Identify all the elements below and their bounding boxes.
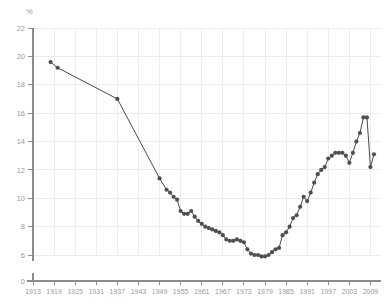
data-point-marker [323, 165, 327, 169]
data-point-marker [193, 215, 197, 219]
y-tick-label: 10 [17, 194, 25, 203]
line-chart: 22201816141210860 1913191919251931193719… [0, 0, 390, 304]
data-point-marker [368, 165, 372, 169]
data-point-marker [288, 225, 292, 229]
data-point-marker [312, 181, 316, 185]
data-point-marker [48, 60, 52, 64]
data-point-marker [179, 209, 183, 213]
data-point-marker [168, 190, 172, 194]
x-tick-label: 1985 [278, 288, 294, 295]
x-tick-label: 1925 [67, 288, 83, 295]
x-tick-label: 1991 [299, 288, 315, 295]
data-point-marker [340, 151, 344, 155]
data-point-marker [316, 172, 320, 176]
data-point-marker [245, 247, 249, 251]
chart-container: 22201816141210860 1913191919251931193719… [0, 0, 390, 304]
data-point-marker [319, 168, 323, 172]
y-tick-label: 6 [21, 251, 25, 260]
data-point-marker [344, 154, 348, 158]
data-point-marker [354, 139, 358, 143]
data-point-marker [326, 156, 330, 160]
y-tick-label: 12 [17, 166, 25, 175]
series-polyline [51, 62, 374, 256]
y-tick-label: 8 [21, 222, 25, 231]
data-point-marker [157, 176, 161, 180]
x-tick-label: 1955 [173, 288, 189, 295]
data-point-marker [280, 233, 284, 237]
data-point-marker [330, 154, 334, 158]
data-point-marker [291, 216, 295, 220]
data-point-marker [277, 246, 281, 250]
data-point-marker [200, 222, 204, 226]
data-point-marker [305, 199, 309, 203]
x-tick-label: 1931 [88, 288, 104, 295]
tick-marks [28, 28, 370, 285]
data-point-marker [298, 205, 302, 209]
data-point-marker [196, 219, 200, 223]
data-point-marker [365, 115, 369, 119]
x-tick-label: 1997 [320, 288, 336, 295]
data-point-marker [309, 190, 313, 194]
data-point-marker [372, 152, 376, 156]
x-tick-label: 1949 [152, 288, 168, 295]
y-tick-label: 0 [21, 277, 25, 286]
data-point-marker [351, 151, 355, 155]
data-point-marker [221, 233, 225, 237]
data-point-marker [217, 230, 221, 234]
y-tick-label: 22 [17, 24, 25, 33]
y-axis-tick-labels: 22201816141210860 [17, 24, 25, 286]
y-tick-label: 20 [17, 52, 25, 61]
data-point-marker [284, 230, 288, 234]
data-point-markers [48, 60, 376, 259]
data-point-marker [295, 213, 299, 217]
x-tick-label: 1961 [194, 288, 210, 295]
data-point-marker [56, 66, 60, 70]
data-point-marker [270, 250, 274, 254]
data-point-marker [164, 188, 168, 192]
x-tick-label: 2003 [342, 288, 358, 295]
data-point-marker [172, 195, 176, 199]
y-axis-unit-label: % [26, 7, 33, 16]
data-point-marker [302, 195, 306, 199]
data-point-marker [358, 131, 362, 135]
x-tick-label: 2009 [363, 288, 379, 295]
data-point-marker [175, 198, 179, 202]
x-tick-label: 1919 [46, 288, 62, 295]
gridlines [33, 28, 381, 255]
x-axis-tick-labels: 1913191919251931193719431949195519611967… [25, 288, 378, 295]
x-tick-label: 1973 [236, 288, 252, 295]
data-point-marker [266, 253, 270, 257]
data-point-marker [189, 209, 193, 213]
y-tick-label: 18 [17, 80, 25, 89]
y-tick-label: 14 [17, 137, 25, 146]
data-point-marker [115, 97, 119, 101]
data-point-marker [186, 212, 190, 216]
x-tick-label: 1943 [131, 288, 147, 295]
x-tick-label: 1913 [25, 288, 41, 295]
x-tick-label: 1967 [215, 288, 231, 295]
data-point-marker [242, 240, 246, 244]
data-point-marker [347, 161, 351, 165]
x-tick-label: 1979 [257, 288, 273, 295]
x-tick-label: 1937 [110, 288, 126, 295]
y-tick-label: 16 [17, 109, 25, 118]
data-series-line [51, 62, 374, 256]
